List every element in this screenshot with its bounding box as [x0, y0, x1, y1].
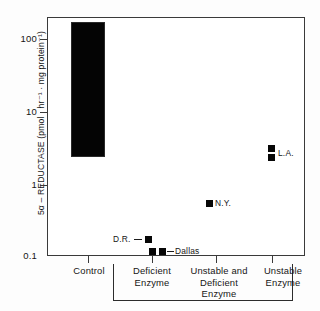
x-tick-mark-control — [88, 256, 89, 263]
data-label-dallas: Dallas — [175, 246, 199, 256]
leader-line-dr — [134, 239, 142, 240]
leader-line-dallas — [167, 251, 174, 252]
x-tick-mark-deficient-enzyme — [152, 256, 153, 263]
x-tick-mark-unstable-enzyme — [272, 256, 273, 263]
data-point-dr — [145, 236, 152, 243]
x-category-unstable-enzyme: Unstable Enzyme — [250, 265, 316, 288]
data-label-ny: N.Y. — [215, 198, 231, 208]
figure-canvas: 5α – REDUCTASE (pmol · hr⁻¹ · mg protein… — [0, 0, 320, 311]
x-category-deficient-enzyme-line2: Enzyme — [119, 277, 185, 289]
data-label-dr: D.R. — [113, 234, 131, 244]
x-category-unstable-and-deficient-enzyme-line3: Enzyme — [180, 288, 258, 300]
y-axis-title: 5α – REDUCTASE (pmol · hr⁻¹ · mg protein… — [36, 18, 46, 228]
y-tick-label-100: 100 — [21, 33, 37, 44]
data-point-la-1 — [268, 145, 275, 152]
x-category-control: Control — [56, 265, 122, 277]
data-point-dallas-2 — [159, 248, 166, 255]
x-category-unstable-enzyme-line1: Unstable — [250, 265, 316, 277]
y-tick-label-10: 10 — [26, 106, 37, 117]
x-category-unstable-and-deficient-enzyme-line1: Unstable and — [180, 265, 258, 277]
y-tick-label-1: 1 — [32, 179, 37, 190]
y-tick-label-0.1: 0.1 — [23, 250, 37, 261]
data-point-la-2 — [268, 154, 275, 161]
data-label-la: L.A. — [278, 148, 294, 158]
x-category-unstable-and-deficient-enzyme: Unstable and Deficient Enzyme — [180, 265, 258, 300]
x-tick-mark-unstable-and-deficient-enzyme — [216, 256, 217, 263]
x-category-deficient-enzyme: Deficient Enzyme — [119, 265, 185, 288]
x-category-deficient-enzyme-line1: Deficient — [119, 265, 185, 277]
x-category-unstable-and-deficient-enzyme-line2: Deficient — [180, 277, 258, 289]
x-category-unstable-enzyme-line2: Enzyme — [250, 277, 316, 289]
data-point-dallas-1 — [149, 248, 156, 255]
data-point-ny — [206, 200, 213, 207]
control-range-bar — [71, 22, 105, 157]
